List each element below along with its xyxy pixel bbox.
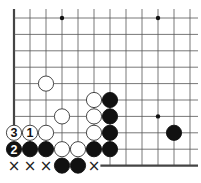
black-stone — [38, 142, 53, 157]
move-number-label: 1 — [27, 126, 34, 140]
white-stone — [86, 125, 101, 140]
star-point-icon — [156, 114, 160, 118]
black-stone — [102, 142, 117, 157]
move-number-label: 3 — [11, 126, 18, 140]
black-stone — [102, 109, 117, 124]
black-stone — [22, 142, 37, 157]
black-stone — [102, 92, 117, 107]
black-stone — [70, 158, 85, 173]
x-mark-icon: × — [88, 157, 101, 175]
go-board-diagram: ×××× 312 — [0, 0, 201, 183]
black-stone — [102, 125, 117, 140]
black-stone — [86, 142, 101, 157]
white-stone — [38, 76, 53, 91]
star-point-icon — [156, 16, 160, 20]
black-stone — [54, 158, 69, 173]
white-stone — [86, 109, 101, 124]
x-mark-icon: × — [8, 157, 21, 175]
white-stone — [54, 109, 69, 124]
x-mark-icon: × — [24, 157, 37, 175]
white-stone — [70, 142, 85, 157]
white-stone — [54, 142, 69, 157]
move-number-label: 2 — [11, 143, 18, 157]
black-stone — [166, 125, 181, 140]
x-mark-icon: × — [40, 157, 53, 175]
white-stone — [38, 125, 53, 140]
white-stone — [86, 92, 101, 107]
star-point-icon — [60, 16, 64, 20]
